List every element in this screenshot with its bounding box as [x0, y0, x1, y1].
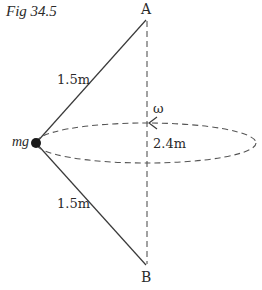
upper-string — [36, 20, 146, 143]
circular-path-dashed — [36, 123, 256, 163]
angular-velocity-label: ω — [153, 101, 164, 116]
upper-length-label: 1.5m — [57, 72, 90, 87]
lower-string — [36, 143, 146, 265]
mass-label: mg — [12, 134, 29, 149]
lower-length-label: 1.5m — [57, 196, 90, 211]
mass-bob — [31, 138, 41, 148]
diameter-label: 2.4m — [153, 136, 186, 151]
conical-pendulum-diagram: Fig 34.5 A ω 2.4m 1.5m 1.5m mg B — [0, 0, 262, 290]
point-b-label: B — [141, 269, 151, 285]
point-a-label: A — [140, 1, 152, 17]
figure-caption: Fig 34.5 — [5, 3, 57, 19]
